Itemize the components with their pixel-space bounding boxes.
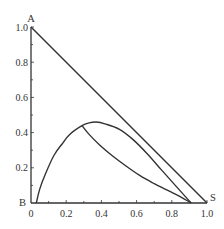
vertex-label-s: S: [210, 192, 216, 203]
tick-labels: 00.20.40.60.81.00.20.40.60.81.0: [16, 22, 214, 220]
hypotenuse-line: [31, 27, 207, 203]
data-series: [31, 27, 207, 203]
vertex-label-a: A: [27, 13, 35, 24]
x-tick-label: 0: [29, 208, 34, 219]
y-tick-label: 1.0: [16, 22, 29, 33]
vertex-label-b: B: [19, 197, 26, 208]
y-tick-label: 0.4: [16, 127, 29, 138]
x-tick-label: 0.4: [95, 208, 108, 219]
inner-curve: [82, 126, 191, 203]
y-tick-label: 0.8: [16, 57, 29, 68]
x-tick-label: 0.6: [130, 208, 143, 219]
x-tick-label: 0.2: [60, 208, 73, 219]
x-tick-label: 0.8: [166, 208, 179, 219]
vertex-labels: ABS: [19, 13, 216, 208]
y-tick-label: 0.6: [16, 92, 29, 103]
y-tick-label: 0.2: [16, 162, 29, 173]
ternary-phase-chart: 00.20.40.60.81.00.20.40.60.81.0 ABS: [0, 0, 224, 229]
x-tick-label: 1.0: [201, 208, 214, 219]
